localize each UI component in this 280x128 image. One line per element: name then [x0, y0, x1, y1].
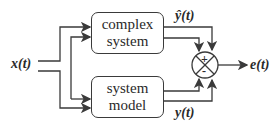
block-label-line1: system	[107, 80, 149, 97]
block-label-line1: complex	[102, 16, 154, 33]
system-model-block: system model	[91, 76, 164, 118]
complex-system-block: complex system	[91, 12, 164, 54]
yhat-label: ŷ(t)	[175, 8, 194, 24]
block-label-line2: system	[107, 33, 149, 50]
minus-sign: -	[202, 64, 206, 79]
block-label-line2: model	[109, 97, 147, 114]
input-label: x(t)	[11, 56, 31, 72]
y-label: y(t)	[175, 105, 194, 121]
error-label: e(t)	[250, 57, 269, 73]
